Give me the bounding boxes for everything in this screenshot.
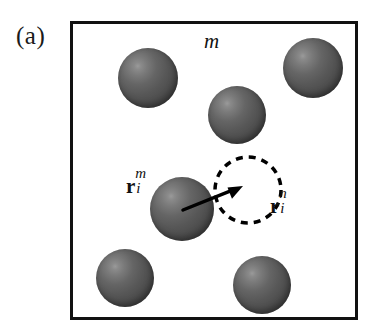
- label-r-i-m: rmi: [126, 172, 148, 197]
- sphere-upper-middle: [208, 86, 266, 144]
- figure-panel-a: (a) m rmi rni: [0, 0, 378, 332]
- label-r-i-n-symbol: r: [270, 194, 279, 218]
- label-r-i-n-subscript: i: [280, 201, 284, 216]
- label-r-i-m-symbol: r: [126, 174, 135, 198]
- sphere-bottom-right: [233, 256, 291, 314]
- sphere-bottom-left: [96, 249, 154, 307]
- sphere-center: [150, 177, 214, 241]
- sphere-top-right: [283, 38, 343, 98]
- species-label-m: m: [204, 29, 219, 54]
- label-r-i-n: rni: [270, 192, 292, 217]
- sphere-top-left: [118, 48, 178, 108]
- label-r-i-m-subscript: i: [136, 181, 140, 196]
- panel-label: (a): [16, 22, 45, 50]
- label-r-i-n-superscript: n: [279, 186, 287, 201]
- label-r-i-m-superscript: m: [135, 166, 146, 181]
